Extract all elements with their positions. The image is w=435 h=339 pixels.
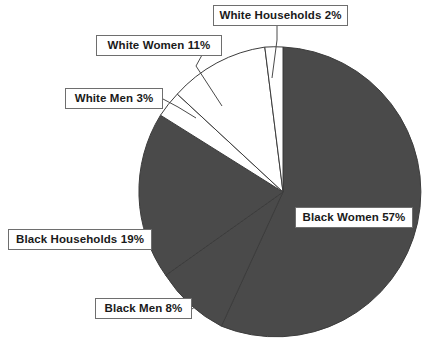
pie-label-white-women[interactable]: White Women 11%: [96, 35, 222, 56]
pie-label-black-men[interactable]: Black Men 8%: [95, 298, 192, 319]
pie-label-white-households[interactable]: White Households 2%: [213, 5, 348, 26]
pie-label-white-men[interactable]: White Men 3%: [65, 88, 163, 109]
pie-label-black-women[interactable]: Black Women 57%: [295, 207, 413, 228]
pie-chart-figure: White Households 2% White Women 11% Whit…: [0, 0, 435, 339]
pie-label-black-households[interactable]: Black Households 19%: [8, 229, 152, 250]
